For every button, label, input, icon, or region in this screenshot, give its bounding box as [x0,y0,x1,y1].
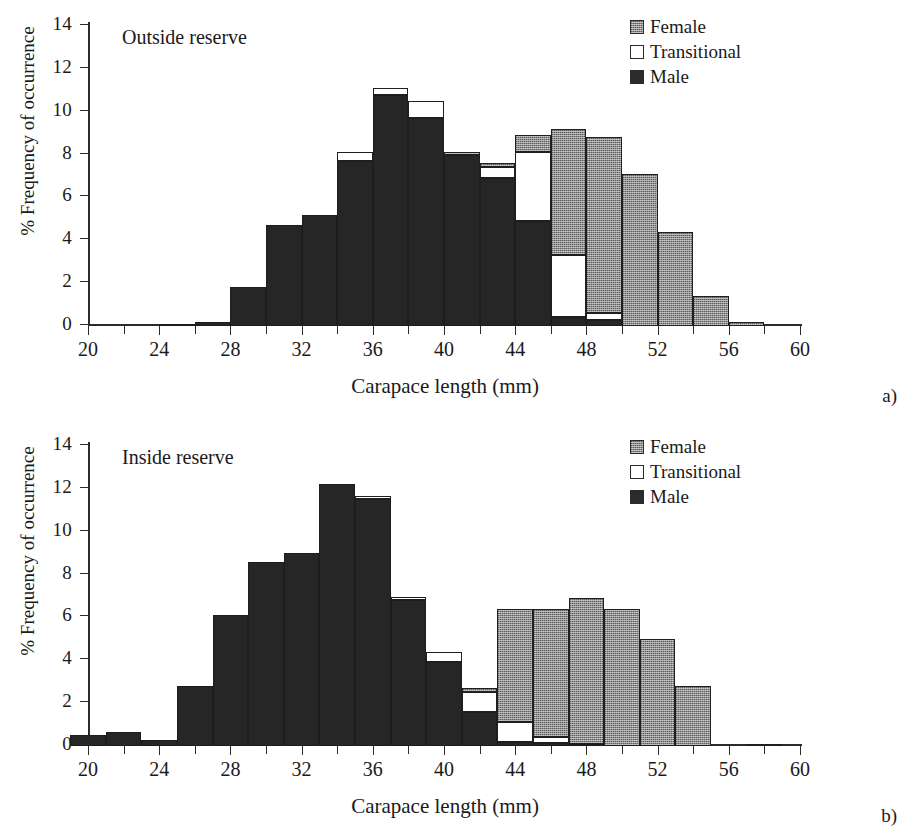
x-axis-title-a: Carapace length (mm) [88,374,802,399]
panel-inside-reserve: % Frequency of occurrence Carapace lengt… [0,420,911,839]
bar-segment-male [373,95,409,326]
x-tick-minor [551,746,552,754]
bar-segment-transitional [337,152,373,161]
x-tick-label: 60 [770,338,830,360]
histogram-bin [586,137,622,326]
histogram-bin [159,324,195,326]
bar-segment-female [569,598,605,744]
x-tick-minor [124,746,125,754]
bar-segment-female [533,609,569,738]
y-tick-label: 8 [36,143,72,162]
x-tick-minor [693,326,694,334]
x-tick-major [658,746,659,755]
x-tick-major [729,746,730,755]
x-tick-label: 56 [699,338,759,360]
bar-segment-transitional [391,597,427,600]
histogram-bin [658,232,694,326]
bar-segment-male [302,215,338,326]
y-tick [80,238,89,239]
y-tick [80,195,89,196]
y-tick [80,153,89,154]
bar-segment-male [230,287,266,326]
bar-segment-male [195,322,231,326]
histogram-bin [693,296,729,326]
bar-segment-transitional [480,167,516,178]
x-tick-label: 32 [272,758,332,780]
bar-segment-female [551,129,587,255]
histogram-bin [497,609,533,746]
y-tick-label: 6 [36,185,72,204]
x-tick-minor [124,326,125,334]
panel-tag-a: a) [882,385,897,407]
x-tick-label: 40 [414,758,474,780]
bar-segment-male [284,553,320,746]
y-tick [80,744,89,745]
bar-segment-transitional [497,722,533,741]
histogram-bin [248,562,284,746]
x-tick-major [373,746,374,755]
y-tick-label: 2 [36,691,72,710]
panel-outside-reserve: % Frequency of occurrence Carapace lengt… [0,0,911,419]
bar-segment-male [319,484,355,747]
histogram-bin [640,639,676,746]
x-tick-label: 28 [200,758,260,780]
y-tick-label: 0 [36,734,72,753]
bar-segment-male [106,732,142,746]
bar-segment-male [462,712,498,746]
x-tick-minor [622,326,623,334]
x-tick-label: 48 [556,338,616,360]
y-tick-label: 14 [36,434,72,453]
bar-segment-male [515,221,551,326]
x-tick-minor [408,326,409,334]
histogram-bin [319,484,355,747]
histogram-bin [266,225,302,326]
histogram-bin [106,732,142,746]
y-tick [80,487,89,488]
y-tick [80,67,89,68]
x-tick-label: 36 [343,758,403,780]
x-tick-major [729,326,730,335]
histogram-bin [355,496,391,746]
y-tick-label: 2 [36,271,72,290]
x-tick-major [800,746,801,755]
x-tick-major [800,326,801,335]
bar-segment-transitional [426,652,462,663]
histogram-bin [408,101,444,326]
histogram-bin [230,287,266,326]
x-tick-minor [764,746,765,754]
y-tick-label: 10 [36,100,72,119]
x-tick-label: 28 [200,338,260,360]
bar-segment-male [444,155,480,326]
bar-segment-transitional [462,692,498,711]
histogram-bin [337,152,373,326]
histogram-bin [284,553,320,746]
bar-segment-transitional [586,313,622,319]
panel-tag-b: b) [881,805,897,827]
x-tick-major [515,326,516,335]
y-tick-label: 6 [36,605,72,624]
y-tick [80,615,89,616]
bar-segment-male [391,600,427,746]
bar-segment-female [640,639,676,746]
histogram-bin [675,686,711,746]
x-tick-major [658,326,659,335]
histogram-bin [515,135,551,326]
histogram-bin [604,609,640,746]
y-tick [80,324,89,325]
plot-area-a [88,24,800,324]
x-tick-minor [337,746,338,754]
x-tick-label: 36 [343,338,403,360]
histogram-bin [195,322,231,326]
y-tick [80,701,89,702]
x-tick-minor [764,326,765,334]
y-tick [80,573,89,574]
bar-segment-female [480,163,516,167]
bar-segment-male [586,320,622,326]
y-tick-label: 14 [36,14,72,33]
x-tick-minor [195,746,196,754]
histogram-bin [373,88,409,326]
y-tick [80,444,89,445]
x-tick-label: 24 [129,338,189,360]
x-tick-label: 20 [58,758,118,780]
bars-container-a [88,24,800,326]
